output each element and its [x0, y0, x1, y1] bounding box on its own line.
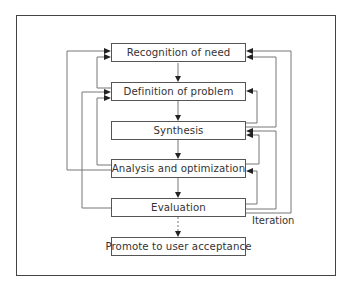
node-promote-to-user-acceptance: Promote to user acceptance	[111, 237, 246, 256]
node-evaluation: Evaluation	[111, 198, 246, 217]
right-feedback-loops	[246, 48, 291, 213]
node-synthesis: Synthesis	[111, 121, 246, 140]
left-feedback-loops	[67, 48, 111, 208]
node-definition-of-problem: Definition of problem	[111, 82, 246, 101]
node-recognition-of-need: Recognition of need	[111, 43, 246, 62]
iteration-label: Iteration	[252, 215, 294, 226]
node-analysis-and-optimization: Analysis and optimization	[111, 159, 246, 178]
